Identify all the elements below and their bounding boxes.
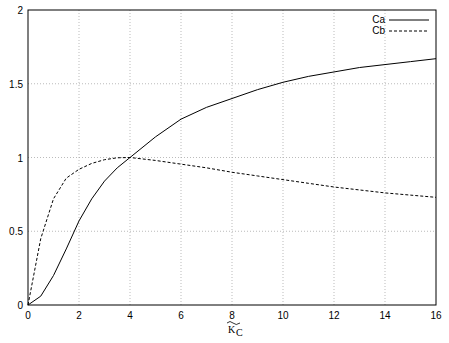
- y-tick-label: 0.5: [9, 226, 23, 237]
- x-tick-label: 16: [430, 310, 442, 321]
- x-label-main: K: [228, 324, 236, 335]
- legend-label-ca: Ca: [372, 14, 385, 25]
- x-tick-label: 6: [178, 310, 184, 321]
- x-tick-label: 0: [25, 310, 31, 321]
- x-tick-label: 2: [76, 310, 82, 321]
- y-tick-label: 1: [17, 153, 23, 164]
- y-tick-label: 1.5: [9, 79, 23, 90]
- y-tick-label: 0: [17, 300, 23, 311]
- x-tick-label: 12: [328, 310, 340, 321]
- axis-ticks: 024681012141600.511.52: [9, 5, 442, 321]
- y-tick-label: 2: [17, 5, 23, 16]
- x-tick-label: 4: [127, 310, 133, 321]
- line-chart: 024681012141600.511.52 Ca Cb K C: [0, 0, 449, 343]
- x-tick-label: 14: [379, 310, 391, 321]
- x-label-sub: C: [236, 327, 243, 338]
- x-axis-label: K C: [227, 322, 243, 339]
- legend: Ca Cb: [372, 14, 429, 36]
- x-tick-label: 10: [277, 310, 289, 321]
- grid-lines: [28, 10, 436, 305]
- x-tick-label: 8: [229, 310, 235, 321]
- legend-label-cb: Cb: [372, 25, 385, 36]
